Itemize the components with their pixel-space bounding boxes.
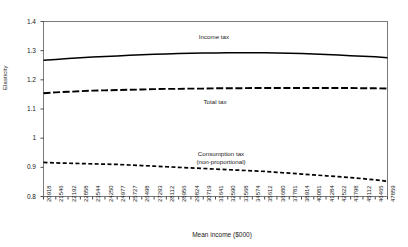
- series-label-consumption-tax: Consumption tax (non-proportional): [182, 150, 260, 166]
- x-tick-label: 24250: [108, 185, 114, 202]
- x-tick-label: 29824: [194, 185, 200, 202]
- x-tick-label: 42522: [341, 185, 347, 202]
- series-label-consumption-tax-line2: (non-proportional): [182, 158, 260, 166]
- x-tick-label: 32590: [230, 185, 236, 202]
- x-tick-label: 45112: [366, 185, 372, 201]
- x-tick-label: 36680: [280, 185, 286, 202]
- y-tick-label: 1.2: [14, 76, 36, 83]
- plot-frame: [44, 22, 388, 197]
- x-tick-label: 41284: [329, 185, 335, 202]
- x-tick-label: 24977: [120, 185, 126, 202]
- x-tick-label: 37781: [292, 185, 298, 202]
- y-tick-label: 1.4: [14, 18, 36, 25]
- x-tick-label: 43798: [353, 185, 359, 202]
- y-tick-label: 1.1: [14, 105, 36, 112]
- series-label-total-tax: Total tax: [192, 98, 238, 106]
- x-tick-label: 47859: [390, 185, 396, 202]
- x-tick-label: 27293: [157, 185, 163, 202]
- x-tick-label: 23544: [95, 185, 101, 202]
- series-label-income-tax: Income tax: [186, 33, 242, 41]
- x-tick-label: 21546: [58, 185, 64, 202]
- y-tick-label: 0.9: [14, 163, 36, 170]
- x-tick-label: 22858: [83, 185, 89, 202]
- x-tick-label: 35612: [267, 185, 273, 202]
- series-label-consumption-tax-line1: Consumption tax: [182, 150, 260, 158]
- x-tick-label: 38914: [304, 185, 310, 202]
- y-tick-label: 1: [14, 134, 36, 141]
- x-tick-label: 30719: [206, 185, 212, 202]
- x-tick-label: 25727: [132, 185, 138, 202]
- x-tick-label: 28956: [181, 185, 187, 202]
- x-tick-label: 22192: [71, 185, 77, 202]
- y-axis-title: Elasticity: [2, 65, 8, 90]
- x-axis-title: Mean income ($000): [18, 231, 408, 238]
- x-tick-label: 28112: [169, 185, 175, 201]
- x-tick-label: 40081: [316, 185, 322, 202]
- x-tick-label: 26498: [144, 185, 150, 202]
- chart-figure: Elasticity 0.80.911.11.21.31.4 209182154…: [0, 0, 408, 247]
- y-tick-label: 0.8: [14, 193, 36, 200]
- x-tick-label: 46465: [378, 185, 384, 202]
- x-tick-label: 31641: [218, 185, 224, 202]
- x-tick-label: 33568: [243, 185, 249, 202]
- x-tick-label: 34574: [255, 185, 261, 202]
- x-tick-label: 20918: [46, 185, 52, 202]
- y-tick-label: 1.3: [14, 47, 36, 54]
